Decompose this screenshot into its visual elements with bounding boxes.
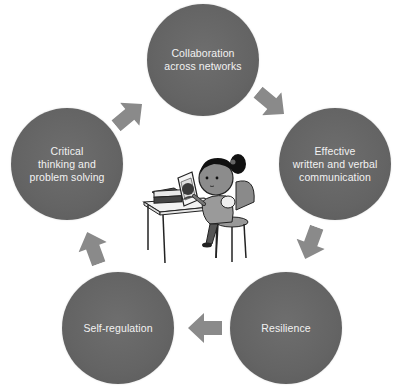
arrow-collaboration-to-communication-icon [248, 81, 293, 126]
node-communication: Effective written and verbal communicati… [279, 108, 391, 220]
girl-reading-illustration [140, 140, 270, 270]
node-label: Self-regulation [83, 322, 152, 335]
arrow-resilience-to-self-regulation-icon [188, 313, 222, 343]
arrow-critical-thinking-to-collaboration-icon [106, 93, 151, 138]
arrow-communication-to-resilience-icon [291, 222, 331, 264]
node-critical-thinking: Critical thinking and problem solving [11, 108, 123, 220]
node-self-regulation: Self-regulation [62, 272, 174, 384]
node-resilience: Resilience [230, 272, 342, 384]
node-label: Effective written and verbal communicati… [293, 145, 378, 184]
node-collaboration: Collaboration across networks [147, 4, 259, 116]
node-label: Collaboration across networks [164, 47, 241, 73]
arrow-self-regulation-to-critical-thinking-icon [73, 227, 113, 269]
node-label: Critical thinking and problem solving [29, 145, 104, 184]
node-label: Resilience [261, 322, 310, 335]
